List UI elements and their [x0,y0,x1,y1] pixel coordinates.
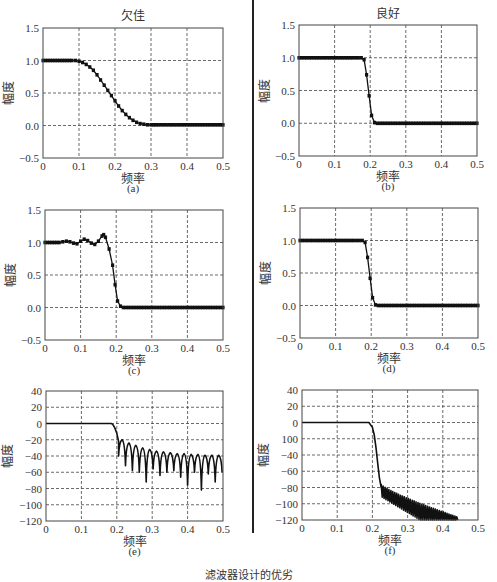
y-tick-label: 0.5 [281,85,295,97]
data-marker [110,94,113,98]
x-tick-label: 0.2 [366,522,380,534]
y-axis-label: 幅度 [0,444,15,468]
y-tick-label: 40 [31,385,43,397]
y-tick-label: 1.0 [27,237,41,249]
x-tick-label: 0.1 [330,522,344,534]
data-marker [74,59,77,63]
x-tick-label: 0.2 [108,160,122,172]
data-marker [117,104,120,108]
y-tick-label: 1.0 [281,52,295,64]
data-marker [116,299,119,303]
panel-label: (d) [383,362,396,375]
data-marker [75,242,78,246]
x-tick-label: 0.5 [471,522,485,534]
data-marker [114,283,117,287]
chart-c-underperforming-magnitude-ripple: 00.10.20.30.40.5−0.50.00.51.01.5频率幅度(c) [3,204,230,377]
x-tick-label: 0.5 [216,523,230,535]
y-tick-label: 0.0 [25,120,39,132]
x-tick-label: 0.4 [180,160,194,172]
data-marker [369,276,372,280]
data-marker [90,241,93,245]
y-tick-label: 0 [293,417,299,429]
data-marker [83,237,86,241]
data-marker [61,240,64,244]
data-marker [108,247,111,251]
x-tick-labels: 00.10.20.30.40.5 [43,523,230,535]
y-tick-label: −100 [275,498,298,510]
data-marker [97,239,100,243]
data-marker [370,114,373,118]
data-marker [131,119,134,123]
chart-e-underperforming-db: 00.10.20.30.40.5−120−100−80−60−40−200204… [0,385,230,558]
y-tick-label: −120 [275,514,298,526]
y-tick-label: 0.5 [282,267,296,279]
data-marker [351,56,354,60]
x-tick-label: 0.2 [109,342,123,354]
panel-label: (f) [385,544,396,557]
y-tick-label: −80 [25,483,43,495]
data-marker [354,56,357,60]
y-tick-label: 1.0 [25,55,39,67]
y-tick-label: −0.5 [276,332,296,344]
y-tick-labels: −0.50.00.51.01.5 [21,204,41,346]
data-marker [70,59,73,63]
x-tick-label: 0.5 [470,158,484,170]
panel-label: (a) [127,182,140,195]
chart-b-good-magnitude: 00.10.20.30.40.5−0.50.00.51.01.5频率幅度良好(b… [257,6,484,193]
data-marker [88,65,91,69]
data-marker [128,116,131,120]
data-marker [99,78,102,82]
x-tick-label: 0.5 [216,160,230,172]
figure-caption: 滤波器设计的优劣 [0,566,497,582]
data-marker [363,58,366,62]
y-tick-label: 0.0 [282,300,296,312]
y-tick-label: 0.5 [25,87,39,99]
x-tick-label: 0.2 [364,340,378,352]
y-axis-label: 幅度 [256,443,271,467]
x-tick-label: 0.3 [401,522,415,534]
y-tick-label: −40 [281,449,299,461]
data-marker [364,241,367,245]
data-marker [104,236,107,240]
data-marker [58,241,61,245]
data-marker [358,239,361,243]
x-tick-label: 0 [43,523,49,535]
data-marker [85,63,88,67]
y-tick-labels: −0.50.00.51.01.5 [275,19,295,162]
x-tick-label: 0.4 [181,342,195,354]
data-marker [368,94,371,98]
x-tick-label: 0.3 [144,160,158,172]
x-tick-label: 0.5 [216,342,230,354]
x-tick-label: 0.2 [110,523,124,535]
chart-d-good-magnitude: 00.10.20.30.40.5−0.50.00.51.01.5频率幅度(d) [258,202,485,375]
data-marker [366,256,369,260]
y-tick-labels: −120−100−80−60−40−2002040 [19,385,42,527]
x-tick-label: 0.4 [436,340,450,352]
y-tick-labels: −0.50.00.51.01.5 [19,22,39,164]
y-tick-label: 1.5 [25,22,39,34]
y-tick-label: 20 [31,401,43,413]
y-tick-label: 0.5 [27,269,41,281]
data-marker [68,240,71,244]
y-tick-label: −60 [281,465,299,477]
y-tick-label: −60 [25,466,43,478]
data-marker [360,56,363,60]
chart-title: 欠佳 [121,8,145,23]
y-tick-label: 1.5 [281,19,295,31]
y-axis-label: 幅度 [257,79,272,103]
x-tick-label: 0.5 [471,340,485,352]
y-tick-label: 0 [37,418,43,430]
y-tick-label: 20 [287,400,299,412]
x-tick-label: 0 [42,342,48,354]
x-tick-label: 0.1 [74,342,88,354]
x-tick-label: 0.1 [75,523,89,535]
panel-label: (e) [128,545,141,558]
data-marker [93,243,96,247]
x-tick-label: 0.1 [329,340,343,352]
data-marker [357,56,360,60]
x-tick-label: 0.3 [145,523,159,535]
y-tick-label: 1.5 [27,204,41,216]
data-marker [374,303,377,307]
x-tick-labels: 00.10.20.30.40.5 [42,342,230,354]
data-marker [111,263,114,267]
